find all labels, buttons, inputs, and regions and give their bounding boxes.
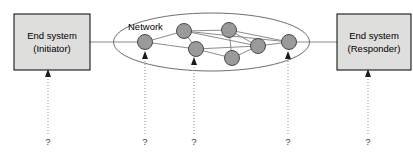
network-node-n6[interactable]	[225, 51, 240, 66]
callout-q2-arrow-icon	[142, 51, 148, 59]
end-system-responder-label-line2: (Responder)	[348, 43, 401, 54]
callout-q4-arrow-icon	[285, 51, 291, 59]
network-node-n2[interactable]	[177, 24, 192, 39]
end-system-responder-label-line1: End system	[349, 30, 399, 41]
network-node-n1[interactable]	[138, 35, 153, 50]
network-node-n4[interactable]	[189, 42, 204, 57]
edge-n4-n5	[196, 46, 258, 49]
network-node-n3[interactable]	[222, 23, 237, 38]
callout-q3-label: ?	[191, 136, 196, 147]
diagram-canvas: Network End system (Initiator) End syste…	[0, 0, 413, 159]
callout-q1-label: ?	[45, 136, 50, 147]
end-system-initiator-label-line2: (Initiator)	[33, 43, 70, 54]
callout-q5: ?	[365, 69, 371, 147]
network-label: Network	[128, 21, 163, 32]
callout-q1: ?	[45, 69, 51, 147]
callout-q2: ?	[142, 51, 148, 147]
end-system-initiator-label-line1: End system	[27, 30, 77, 41]
callout-q3-arrow-icon	[191, 57, 197, 65]
callout-annotations: ? ? ? ? ?	[45, 51, 371, 147]
end-system-initiator[interactable]: End system (Initiator)	[14, 14, 90, 70]
callout-q4-label: ?	[285, 136, 290, 147]
network-diagram: Network End system (Initiator) End syste…	[0, 0, 413, 159]
network-node-n5[interactable]	[251, 39, 266, 54]
callout-q5-label: ?	[365, 136, 370, 147]
network-edges	[145, 30, 289, 58]
end-system-responder[interactable]: End system (Responder)	[337, 14, 411, 70]
network-node-n7[interactable]	[282, 35, 297, 50]
callout-q2-label: ?	[142, 136, 147, 147]
callout-q4: ?	[285, 51, 291, 147]
